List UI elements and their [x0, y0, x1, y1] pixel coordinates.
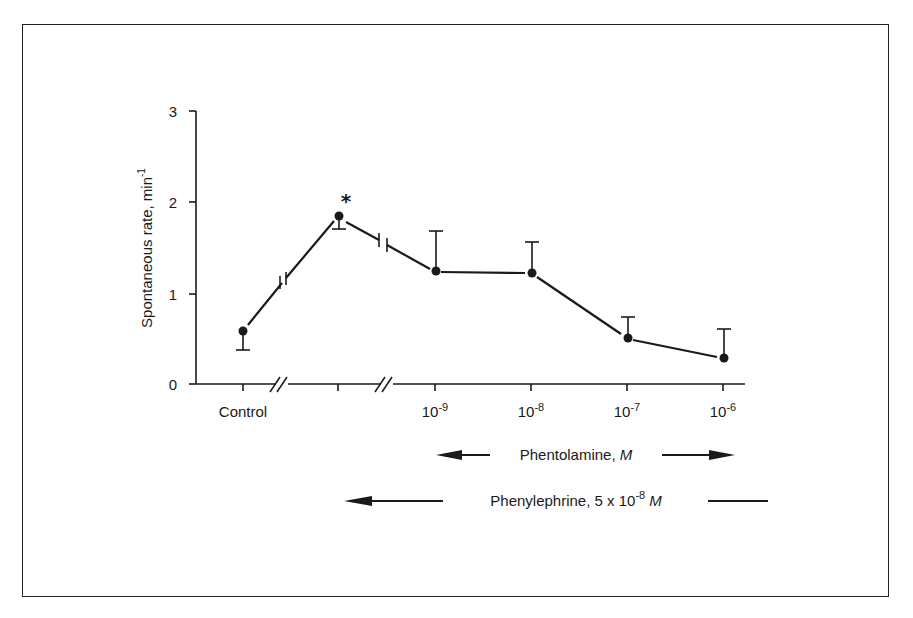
- y-axis-title: Spontaneous rate, min-1: [136, 168, 155, 328]
- point-1e-6: [720, 354, 729, 363]
- chart: 3 2 1 0 Spontaneous rate, min-1 Control …: [0, 0, 913, 618]
- arrow-right-icon: [709, 450, 735, 460]
- x-tick-1e-7: 10-7: [614, 401, 640, 420]
- phentolamine-label: Phentolamine, M: [520, 446, 633, 463]
- phenylephrine-label: Phenylephrine, 5 x 10-8M: [490, 489, 662, 509]
- point-1e-8: [528, 269, 537, 278]
- x-tick-1e-9: 10-9: [422, 401, 448, 420]
- x-tick-1e-6: 10-6: [710, 401, 736, 420]
- arrow-left-icon: [344, 496, 372, 506]
- point-1e-7: [624, 334, 633, 343]
- significance-star: *: [341, 189, 352, 213]
- data-points: [239, 212, 729, 363]
- y-axis: [189, 111, 196, 384]
- arrow-left-icon: [436, 450, 462, 460]
- svg-text:Spontaneous rate, min-1: Spontaneous rate, min-1: [136, 168, 155, 328]
- error-bars: [236, 216, 731, 358]
- y-tick-0: 0: [169, 376, 177, 393]
- phenylephrine-annotation: Phenylephrine, 5 x 10-8M: [344, 489, 768, 509]
- y-tick-2: 2: [169, 194, 177, 211]
- y-tick-1: 1: [169, 286, 177, 303]
- phentolamine-annotation: Phentolamine, M: [436, 446, 735, 463]
- point-control: [239, 327, 248, 336]
- y-tick-3: 3: [169, 103, 177, 120]
- x-tick-control: Control: [219, 403, 267, 420]
- line-break-marks: [280, 233, 387, 289]
- data-line: [248, 221, 717, 357]
- point-1e-9: [432, 267, 441, 276]
- x-tick-1e-8: 10-8: [518, 401, 544, 420]
